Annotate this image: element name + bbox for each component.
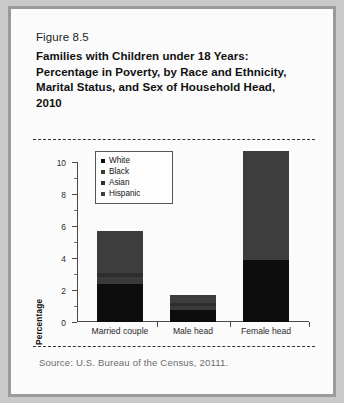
divider-bottom (33, 346, 315, 347)
y-minor-tick-1 (74, 306, 77, 307)
bar-segment-white (243, 260, 289, 322)
figure-page: Figure 8.5 Families with Children under … (11, 9, 333, 394)
legend-swatch-icon (101, 181, 105, 185)
bar-segment-hispanic (170, 294, 216, 303)
y-minor-tick-7 (74, 210, 77, 211)
y-tick-2: 2 (72, 290, 77, 291)
x-tick-label: Female head (241, 326, 291, 336)
y-minor-tick-3 (74, 274, 77, 275)
legend-swatch-icon (101, 192, 105, 196)
bar-female-head (243, 151, 289, 322)
bar-married-couple (97, 231, 143, 322)
legend-item-white: White (101, 155, 167, 166)
y-tick-label: 10 (57, 158, 66, 168)
legend-swatch-icon (101, 170, 105, 174)
y-tick-label: 4 (61, 254, 66, 264)
divider-top (33, 139, 315, 140)
figure-number: Figure 8.5 (36, 31, 89, 43)
y-tick-label: 2 (61, 286, 66, 296)
y-tick-10: 10 (72, 162, 77, 163)
x-separator-2 (230, 322, 231, 327)
x-tick-label: Married couple (91, 326, 148, 336)
y-axis (77, 162, 78, 322)
chart-area: Percentage 0246810 Married coupleMale he… (33, 149, 321, 341)
figure-frame: Figure 8.5 Families with Children under … (8, 6, 336, 397)
x-separator-1 (157, 322, 158, 327)
y-tick-label: 8 (61, 190, 66, 200)
bar-segment-hispanic (97, 230, 143, 273)
legend-item-asian: Asian (101, 177, 167, 188)
legend-label: Black (109, 166, 129, 177)
y-tick-6: 6 (72, 226, 77, 227)
y-tick-4: 4 (72, 258, 77, 259)
legend-item-hispanic: Hispanic (101, 188, 167, 199)
bar-segment-white (97, 284, 143, 322)
legend-label: Hispanic (109, 188, 140, 199)
y-tick-0: 0 (72, 322, 77, 323)
y-minor-tick-5 (74, 242, 77, 243)
y-tick-label: 6 (61, 222, 66, 232)
legend-label: White (109, 155, 130, 166)
legend-item-black: Black (101, 166, 167, 177)
y-axis-label: Percentage (35, 331, 44, 345)
y-minor-tick-9 (74, 178, 77, 179)
figure-source: Source: U.S. Bureau of the Census, 20111… (39, 357, 228, 368)
legend-label: Asian (109, 177, 129, 188)
chart-legend: WhiteBlackAsianHispanic (95, 151, 173, 204)
bar-segment-hispanic (243, 150, 289, 260)
bar-male-head (170, 295, 216, 322)
y-tick-label: 0 (61, 318, 66, 328)
x-tick-label: Male head (173, 326, 213, 336)
figure-title: Families with Children under 18 Years: P… (36, 49, 301, 111)
legend-swatch-icon (101, 159, 105, 163)
x-separator-end (309, 322, 310, 327)
y-tick-8: 8 (72, 194, 77, 195)
bar-segment-black (97, 276, 143, 284)
bar-segment-white (170, 310, 216, 322)
